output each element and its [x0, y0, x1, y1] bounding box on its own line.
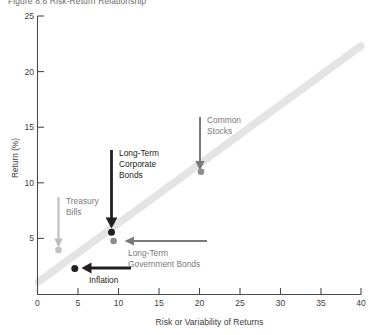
- y-tick-label-25: 25: [12, 11, 34, 21]
- chart-canvas: [0, 0, 375, 335]
- annotation-corporate-bonds-line2: Corporate: [119, 159, 156, 169]
- x-tick-marks: [38, 288, 362, 295]
- corporate-bonds-arrow: [106, 150, 118, 229]
- y-tick-label-5: 5: [12, 233, 34, 243]
- datapoint-inflation: [71, 265, 78, 272]
- x-tick-label-5: 5: [68, 298, 88, 308]
- x-tick-label-25: 25: [230, 298, 250, 308]
- annotation-government-bonds-line2: Government Bonds: [128, 259, 200, 269]
- annotation-common-stocks-line2: Stocks: [207, 126, 232, 136]
- annotation-corporate-bonds-line3: Bonds: [119, 170, 143, 180]
- y-axis-label: Return (%): [10, 138, 20, 178]
- datapoint-long-term-government-bonds: [110, 238, 117, 245]
- x-tick-label-30: 30: [271, 298, 291, 308]
- y-tick-marks: [38, 16, 45, 238]
- datapoint-long-term-corporate-bonds: [108, 229, 115, 236]
- x-tick-label-10: 10: [109, 298, 129, 308]
- x-axis-label: Risk or Variability of Returns: [22, 317, 375, 327]
- datapoint-treasury-bills: [55, 247, 62, 254]
- annotation-inflation-label: Inflation: [89, 275, 118, 285]
- x-tick-label-20: 20: [190, 298, 210, 308]
- treasury-bills-arrow: [54, 197, 62, 248]
- x-tick-label-40: 40: [351, 298, 371, 308]
- inflation-arrow: [82, 263, 132, 274]
- y-tick-label-10: 10: [12, 178, 34, 188]
- annotation-treasury-bills-line1: Treasury: [66, 196, 99, 206]
- annotation-government-bonds-line1: Long-Term: [128, 248, 168, 258]
- annotation-treasury-bills-line2: Bills: [66, 207, 81, 217]
- risk-return-chart-figure: Figure 8.6 Risk-Return Relationship: [0, 0, 375, 335]
- y-tick-label-15: 15: [12, 122, 34, 132]
- x-tick-label-0: 0: [28, 298, 48, 308]
- x-tick-label-15: 15: [149, 298, 169, 308]
- annotation-common-stocks-line1: Common: [207, 115, 241, 125]
- government-bonds-arrow: [125, 236, 208, 245]
- x-tick-label-35: 35: [311, 298, 331, 308]
- common-stocks-arrow: [195, 117, 204, 171]
- datapoint-common-stocks: [198, 168, 205, 175]
- annotation-corporate-bonds-line1: Long-Term: [119, 148, 159, 158]
- y-tick-label-20: 20: [12, 67, 34, 77]
